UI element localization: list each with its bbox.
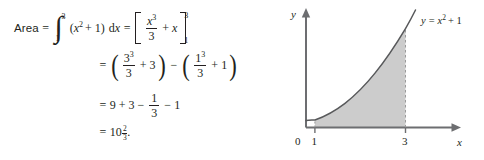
numerator-exponent: 3: [130, 50, 134, 59]
line3-operator-2: −: [138, 98, 145, 113]
curve-label-plus-one: + 1: [448, 15, 462, 26]
first-term-body: 33 3 + 3: [120, 51, 157, 79]
result-period: .: [127, 125, 130, 140]
integrand-close-paren: ): [101, 21, 105, 35]
graph-svg: y x 0 1 3 y=x2+ 1: [250, 0, 484, 160]
equals-sign-2: =: [124, 21, 131, 36]
figure-container: Area = ∫ 3 1 (x2+ 1) dx = x3 3 +: [0, 0, 484, 160]
equals-sign-5: =: [100, 125, 107, 140]
antiderivative-expression: x3 3 + x: [141, 14, 180, 42]
one-third-fraction: 1 3: [149, 92, 159, 119]
bracket-lower-limit: 1: [184, 36, 188, 45]
open-paren-1: (: [111, 50, 119, 80]
curve-label-exponent: 2: [442, 13, 446, 22]
fraction-denominator: 3: [150, 106, 158, 119]
line3-operator-1: +: [119, 98, 126, 113]
fraction-numerator: 33: [123, 51, 135, 65]
bracket-x-term: x: [172, 21, 177, 36]
x-tick-label-3: 3: [402, 135, 408, 147]
open-paren-2: (: [183, 50, 191, 80]
differential-dx: dx: [109, 21, 120, 36]
second-term-addend: 1: [221, 58, 227, 73]
dx-variable: x: [115, 21, 120, 35]
numerator-exponent: 3: [201, 50, 205, 59]
fraction-denominator: 3: [125, 66, 133, 79]
equation-line-1: Area = ∫ 3 1 (x2+ 1) dx = x3 3 +: [14, 12, 186, 44]
shaded-area-region: [315, 29, 406, 128]
equation-line-3: = 9 + 3 − 1 3 − 1: [96, 92, 180, 119]
line3-operator-3: −: [164, 98, 171, 113]
curve-label-y: y: [420, 15, 426, 26]
worked-solution: Area = ∫ 3 1 (x2+ 1) dx = x3 3 +: [0, 0, 250, 160]
second-term-plus: +: [211, 58, 218, 73]
y-axis-arrowhead: [302, 8, 310, 18]
subtraction-operator: −: [171, 58, 178, 73]
area-label: Area: [14, 22, 39, 34]
line3-term-a: 9: [110, 98, 116, 113]
x-axis-label: x: [456, 136, 462, 148]
integrand-exponent: 2: [79, 20, 83, 29]
final-result: 10 2 3 .: [110, 124, 131, 140]
origin-label: 0: [295, 135, 301, 147]
second-term-body: 13 3 + 1: [191, 51, 228, 79]
integral-sign: ∫ 3 1: [54, 13, 62, 43]
curve-label-equals: =: [429, 15, 435, 26]
area-under-curve-graph: y x 0 1 3 y=x2+ 1: [250, 0, 484, 160]
first-parenthetical-term: ( 33 3 + 3 ): [110, 50, 167, 80]
x-tick-label-1: 1: [312, 135, 318, 147]
equals-sign-3: =: [100, 58, 107, 73]
three-cubed-over-three: 33 3: [123, 51, 135, 79]
result-whole-part: 10: [110, 125, 122, 140]
fraction-numerator: 2: [123, 125, 127, 133]
equation-line-2: = ( 33 3 + 3 ) − (: [96, 50, 238, 80]
y-axis-label: y: [290, 8, 296, 20]
integrand-plus-one: + 1: [85, 21, 101, 35]
integral-lower-limit: 1: [55, 34, 59, 43]
first-term-plus: +: [140, 58, 147, 73]
one-cubed-over-three: 13 3: [194, 51, 206, 79]
bracket-plus: +: [162, 21, 169, 36]
equals-sign-1: =: [42, 21, 49, 36]
integral-upper-limit: 3: [61, 12, 65, 21]
fraction-numerator: 1: [150, 92, 158, 105]
equation-line-4-result: = 10 2 3 .: [96, 124, 130, 140]
numerator-exponent: 3: [152, 13, 156, 22]
line3-term-b: 3: [129, 98, 135, 113]
curve-function-label: y=x2+ 1: [420, 13, 462, 26]
fraction-denominator: 3: [148, 29, 156, 42]
fraction-numerator: 13: [194, 51, 206, 65]
result-fraction-part: 2 3: [122, 125, 127, 141]
curve-label-text: y=x2+ 1: [420, 13, 462, 26]
line3-term-c: 1: [174, 98, 180, 113]
equals-sign-4: =: [100, 98, 107, 113]
bracket-right: 3 1: [180, 12, 186, 44]
x-cubed-over-3: x3 3: [146, 14, 157, 42]
fraction-numerator: x3: [146, 14, 157, 28]
integrand: (x2+ 1): [70, 20, 105, 36]
fraction-denominator: 3: [123, 134, 127, 142]
x-axis-arrowhead: [452, 123, 462, 131]
fraction-denominator: 3: [196, 66, 204, 79]
antiderivative-bracket: x3 3 + x 3 1: [135, 12, 186, 44]
second-parenthetical-term: ( 13 3 + 1 ): [181, 50, 238, 80]
first-term-addend: 3: [150, 58, 156, 73]
close-paren-1: ): [158, 50, 166, 80]
close-paren-2: ): [229, 50, 237, 80]
bracket-left: [135, 12, 141, 44]
bracket-upper-limit: 3: [184, 11, 188, 20]
